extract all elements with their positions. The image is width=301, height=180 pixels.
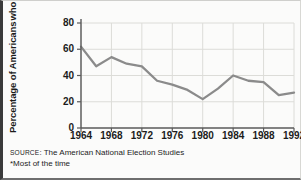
y-axis-tick-label: 80 bbox=[52, 18, 74, 28]
y-axis-tick-label: 20 bbox=[52, 97, 74, 107]
x-axis-tick-label: 1992 bbox=[274, 131, 301, 141]
y-axis-tick-label: 40 bbox=[52, 71, 74, 81]
chart-notes: SOURCE: The American National Election S… bbox=[10, 148, 300, 169]
data-line-trust-federal-government bbox=[81, 47, 294, 99]
y-axis-tick-label: 60 bbox=[52, 44, 74, 54]
footnote: *Most of the time bbox=[10, 159, 300, 169]
source-text: : The American National Election Studies bbox=[39, 148, 184, 157]
source-label: SOURCE bbox=[10, 149, 39, 156]
source-note: SOURCE: The American National Election S… bbox=[10, 148, 300, 158]
chart-figure: Percentage of Americans who trust the fe… bbox=[0, 0, 301, 180]
